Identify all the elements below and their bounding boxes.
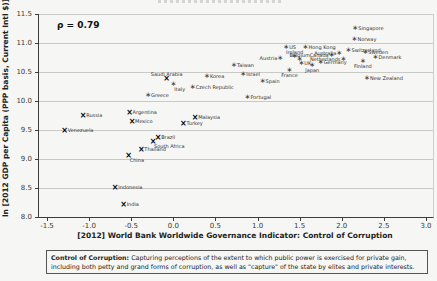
point-label: Turkey [186, 121, 202, 127]
y-axis-title: ln [2012 GDP per Capita (PPP basis, Curr… [1, 14, 12, 217]
y-gridline [39, 159, 433, 160]
point-label: Venezuela [68, 128, 94, 134]
point-label: France [281, 73, 298, 79]
y-gridline [39, 14, 433, 15]
y-tick-label: 11.0 [16, 39, 32, 47]
x-tick-mark [47, 217, 48, 221]
y-tick-label: 9.0 [21, 155, 32, 163]
y-tick-label: 8.0 [21, 213, 32, 221]
point-label: Argentina [133, 110, 157, 116]
cropped-title-remnant [158, 0, 282, 3]
point-label: Czech Republic [196, 85, 234, 91]
x-tick-mark [384, 217, 385, 221]
point-label: Greece [151, 93, 169, 99]
x-tick-label: -1.0 [82, 222, 96, 230]
point-label: Indonesia [118, 185, 142, 191]
caption-term: Control of Corruption: [51, 254, 129, 261]
y-gridline [39, 72, 433, 73]
point-label: New Zealand [370, 76, 403, 82]
point-label: Portugal [250, 95, 271, 101]
x-tick-label: 2.0 [336, 222, 347, 230]
x-tick-mark [426, 217, 427, 221]
y-tick-label: 8.5 [21, 184, 32, 192]
y-gridline [39, 130, 433, 131]
scatter-plot-figure: ln [2012 GDP per Capita (PPP basis, Curr… [0, 0, 437, 281]
point-label: India [127, 202, 139, 208]
x-tick-label: 3.0 [420, 222, 431, 230]
point-label: Germany [324, 60, 347, 66]
y-tick-mark [35, 14, 39, 15]
x-axis-title: [2012] World Bank Worldwide Governance I… [38, 231, 432, 240]
x-tick-mark [342, 217, 343, 221]
y-gridline [39, 101, 433, 102]
y-tick-mark [35, 72, 39, 73]
point-label: Austria [260, 56, 278, 62]
plot-area: ρ = 0.79 8.08.59.09.510.010.511.011.5-1.… [38, 14, 434, 218]
x-tick-mark [258, 217, 259, 221]
y-tick-label: 11.5 [16, 10, 32, 18]
point-label: Mexico [135, 119, 152, 125]
point-label: Singapore [358, 25, 383, 31]
point-label: Finland [354, 64, 372, 70]
x-tick-mark [89, 217, 90, 221]
point-label: Brazil [161, 135, 175, 141]
x-tick-label: 0.5 [210, 222, 221, 230]
caption-box: Control of Corruption: Capturing percept… [46, 250, 428, 274]
point-label: Israel [246, 72, 260, 78]
x-tick-label: 1.0 [252, 222, 263, 230]
y-tick-label: 10.5 [16, 68, 32, 76]
x-tick-label: 2.5 [378, 222, 389, 230]
data-point-austria: ∗ [277, 56, 283, 63]
y-tick-mark [35, 130, 39, 131]
correlation-annotation: ρ = 0.79 [57, 20, 99, 30]
point-label: Spain [266, 79, 280, 85]
point-label: Saudi Arabia [151, 71, 183, 77]
y-tick-label: 9.5 [21, 126, 32, 134]
x-tick-label: -0.5 [124, 222, 138, 230]
y-tick-mark [35, 217, 39, 218]
y-tick-mark [35, 43, 39, 44]
x-tick-mark [173, 217, 174, 221]
y-gridline [39, 43, 433, 44]
point-label: Italy [174, 87, 185, 93]
x-tick-label: 0.0 [168, 222, 179, 230]
y-gridline [39, 188, 433, 189]
x-tick-mark [215, 217, 216, 221]
point-label: Korea [210, 74, 224, 80]
point-label: Norway [357, 36, 376, 42]
y-tick-mark [35, 101, 39, 102]
point-label: Taiwan [237, 63, 254, 69]
y-tick-label: 10.0 [16, 97, 32, 105]
x-tick-mark [131, 217, 132, 221]
y-tick-mark [35, 159, 39, 160]
point-label: Russia [86, 113, 102, 119]
point-label: Denmark [378, 54, 401, 60]
x-tick-label: 1.5 [294, 222, 305, 230]
point-label: Thailand [144, 147, 165, 153]
point-label: China [130, 158, 144, 164]
x-tick-mark [300, 217, 301, 221]
point-label: Japan [305, 68, 319, 74]
y-tick-mark [35, 188, 39, 189]
point-label: Belgium [289, 53, 310, 59]
x-tick-label: -1.5 [40, 222, 54, 230]
